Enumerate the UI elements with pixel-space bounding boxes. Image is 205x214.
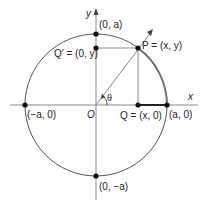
label-right: (a, 0) bbox=[169, 109, 192, 120]
label-bottom: (0, −a) bbox=[99, 181, 128, 192]
point-right bbox=[164, 102, 169, 107]
point-p bbox=[135, 45, 140, 50]
arc-theta bbox=[138, 48, 167, 105]
point-left bbox=[22, 102, 27, 107]
label-top: (0, a) bbox=[99, 19, 122, 30]
point-bottom bbox=[93, 173, 98, 178]
point-top bbox=[93, 31, 98, 36]
ray-arrow-icon bbox=[147, 29, 153, 36]
label-p: P = (x, y) bbox=[142, 40, 182, 51]
origin-label: O bbox=[87, 109, 95, 120]
label-q: Q = (x, 0) bbox=[120, 110, 162, 121]
y-axis-label: y bbox=[85, 8, 92, 19]
label-q-prime: Q′ = (0, y) bbox=[54, 48, 98, 59]
x-axis-label: x bbox=[187, 91, 194, 102]
unit-circle-diagram: y x O θ (0, a) Q′ = (0, y) P = (x, y) Q … bbox=[0, 0, 205, 214]
label-left: (−a, 0) bbox=[27, 109, 56, 120]
angle-arrow-icon bbox=[101, 94, 105, 99]
y-axis-arrow-icon bbox=[94, 8, 99, 15]
angle-label: θ bbox=[107, 93, 112, 103]
point-q bbox=[135, 102, 140, 107]
